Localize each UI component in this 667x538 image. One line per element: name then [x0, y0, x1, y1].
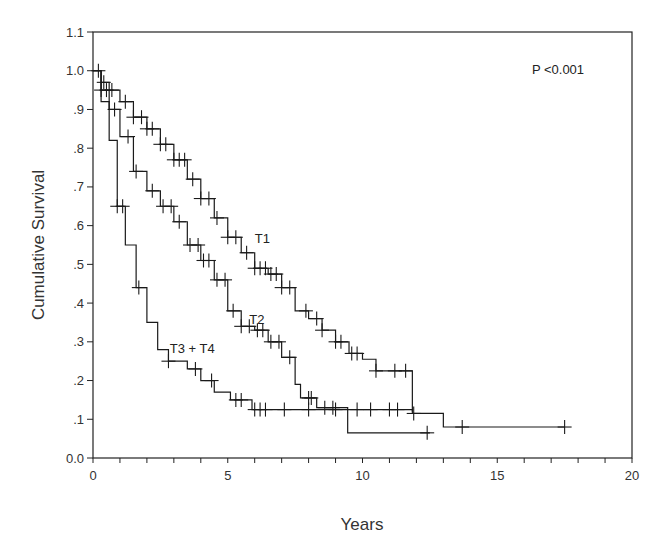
p-value-annotation: P <0.001 [532, 62, 584, 77]
y-tick-label: .4 [73, 296, 84, 311]
y-axis: 1.11.0.9.8.7.6.5.4.3.2.10.0 [66, 25, 93, 466]
curve-t1 [93, 71, 565, 427]
curve-t3-t4 [93, 71, 412, 412]
plot-area-border [93, 32, 632, 458]
y-tick-label: 0.0 [66, 451, 84, 466]
x-tick-label: 10 [355, 468, 369, 483]
series-label-t2: T2 [249, 312, 264, 327]
series-label-t1: T1 [255, 231, 270, 246]
x-tick-label: 0 [89, 468, 96, 483]
x-tick-label: 20 [625, 468, 639, 483]
y-tick-label: 1.0 [66, 63, 84, 78]
survival-curves [91, 64, 571, 440]
series-label-t3-t4: T3 + T4 [170, 341, 215, 356]
series-labels: T1T2T3 + T4 [170, 231, 270, 356]
y-tick-label: .1 [73, 412, 84, 427]
y-axis-title: Cumulative Survival [29, 170, 48, 320]
x-tick-label: 15 [490, 468, 504, 483]
y-tick-label: 1.1 [66, 25, 84, 40]
y-tick-label: .2 [73, 373, 84, 388]
y-tick-label: .8 [73, 141, 84, 156]
x-axis: 05101520 [89, 458, 639, 483]
x-axis-title: Years [341, 515, 384, 534]
curve-t2 [93, 71, 430, 433]
kaplan-meier-chart: 1.11.0.9.8.7.6.5.4.3.2.10.0 05101520 T1T… [0, 0, 667, 538]
y-tick-label: .7 [73, 179, 84, 194]
y-tick-label: .9 [73, 102, 84, 117]
y-tick-label: .5 [73, 257, 84, 272]
y-tick-label: .6 [73, 218, 84, 233]
x-tick-label: 5 [224, 468, 231, 483]
y-tick-label: .3 [73, 334, 84, 349]
plot-frame [93, 32, 632, 458]
